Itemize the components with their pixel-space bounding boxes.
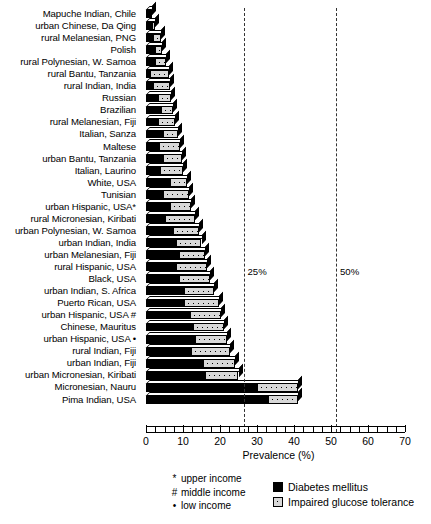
segment-impaired-glucose-tolerance — [158, 118, 175, 126]
bar-top-face — [146, 368, 242, 372]
bar-top-face — [146, 392, 301, 396]
income-legend-label: low income — [181, 499, 231, 513]
income-legend-item: •low income — [168, 499, 245, 513]
x-axis: 010203040506070 — [146, 424, 417, 448]
category-label: rural Bantu, Tanzania — [0, 68, 140, 80]
series-legend-item: Impaired glucose tolerance — [273, 495, 414, 509]
segment-diabetes-mellitus — [146, 299, 184, 307]
segment-diabetes-mellitus — [146, 118, 158, 126]
x-tick-label: 40 — [288, 435, 300, 447]
bar-top-face — [146, 139, 184, 143]
bar-right-face — [166, 51, 170, 63]
bar-right-face — [182, 147, 186, 159]
segment-impaired-glucose-tolerance — [155, 58, 165, 66]
bar-right-face — [219, 292, 223, 304]
bar-top-face — [146, 320, 227, 324]
segment-impaired-glucose-tolerance — [184, 299, 219, 307]
x-tick-major — [220, 425, 221, 432]
reference-line-label: 50% — [340, 266, 359, 277]
stacked-bar — [146, 118, 175, 126]
segment-impaired-glucose-tolerance — [176, 239, 202, 247]
x-tick-minor — [248, 427, 249, 432]
bar-right-face — [239, 364, 243, 376]
segment-diabetes-mellitus — [146, 58, 155, 66]
segment-impaired-glucose-tolerance — [158, 94, 171, 102]
reference-line — [336, 8, 337, 432]
category-label: Russian — [0, 92, 140, 104]
segment-diabetes-mellitus — [146, 178, 170, 186]
income-legend-label: middle income — [181, 486, 245, 500]
segment-diabetes-mellitus — [146, 347, 191, 355]
bar-right-face — [170, 75, 174, 87]
series-legend-label: Diabetes mellitus — [288, 480, 368, 494]
bar-right-face — [202, 232, 206, 244]
bar-right-face — [183, 159, 187, 171]
income-legend-symbol: • — [168, 499, 181, 513]
segment-impaired-glucose-tolerance — [205, 371, 238, 379]
bar-right-face — [169, 63, 173, 75]
category-label: rural Indian, India — [0, 80, 140, 92]
category-label: urban Melanesian, Fiji — [0, 249, 140, 261]
segment-diabetes-mellitus — [146, 154, 163, 162]
segment-impaired-glucose-tolerance — [153, 34, 160, 42]
bar-right-face — [298, 376, 302, 388]
bar-right-face — [227, 328, 231, 340]
bar-right-face — [207, 256, 211, 268]
bar-right-face — [298, 388, 302, 400]
segment-impaired-glucose-tolerance — [173, 227, 199, 235]
income-legend-item: #middle income — [168, 486, 245, 500]
segment-diabetes-mellitus — [146, 202, 170, 210]
x-tick-minor — [396, 427, 397, 432]
bar-top-face — [146, 163, 187, 167]
segment-diabetes-mellitus — [146, 46, 155, 54]
segment-diabetes-mellitus — [146, 323, 193, 331]
bar-top-face — [146, 127, 182, 131]
stacked-bar — [146, 82, 170, 90]
x-tick-minor — [229, 427, 230, 432]
segment-impaired-glucose-tolerance — [155, 46, 162, 54]
category-label: urban Hispanic, USA* — [0, 201, 140, 213]
segment-diabetes-mellitus — [146, 166, 160, 174]
stacked-bar — [146, 395, 298, 403]
bar-top-face — [146, 296, 222, 300]
stacked-bar — [146, 251, 205, 259]
segment-diabetes-mellitus — [146, 190, 163, 198]
segment-diabetes-mellitus — [146, 275, 179, 283]
bar-right-face — [178, 123, 182, 135]
bar-top-face — [146, 259, 211, 263]
category-label: urban Micronesian, Kiribati — [0, 369, 140, 381]
category-label: White, USA — [0, 177, 140, 189]
category-label: rural Melanesian, Fiji — [0, 116, 140, 128]
category-label: urban Hispanic, USA # — [0, 309, 140, 321]
bar-right-face — [161, 26, 165, 38]
category-label: urban Polynesian, W. Samoa — [0, 225, 140, 237]
income-legend-item: *upper income — [168, 472, 245, 486]
stacked-bar — [146, 275, 210, 283]
category-label: rural Polynesian, W. Samoa — [0, 56, 140, 68]
bar-right-face — [199, 219, 203, 231]
x-tick-label: 30 — [251, 435, 263, 447]
x-tick-major — [183, 425, 184, 432]
segment-diabetes-mellitus — [146, 82, 153, 90]
segment-impaired-glucose-tolerance — [170, 178, 187, 186]
x-tick-minor — [340, 427, 341, 432]
stacked-bar — [146, 227, 199, 235]
stacked-bar — [146, 22, 155, 30]
segment-diabetes-mellitus — [146, 359, 203, 367]
x-tick-major — [405, 425, 406, 432]
x-tick-minor — [359, 427, 360, 432]
segment-impaired-glucose-tolerance — [163, 190, 189, 198]
category-label: urban Indian, S. Africa — [0, 285, 140, 297]
bar-top-face — [146, 283, 218, 287]
segment-diabetes-mellitus — [146, 371, 205, 379]
bar-right-face — [155, 14, 159, 26]
bar-right-face — [205, 244, 209, 256]
segment-diabetes-mellitus — [146, 142, 159, 150]
income-legend: *upper income#middle income•low income — [168, 472, 245, 513]
segment-impaired-glucose-tolerance — [161, 106, 173, 114]
segment-diabetes-mellitus — [146, 287, 184, 295]
category-label: Black, USA — [0, 273, 140, 285]
bar-top-face — [146, 380, 301, 384]
category-label: Mapuche Indian, Chile — [0, 8, 140, 20]
stacked-bar — [146, 371, 239, 379]
